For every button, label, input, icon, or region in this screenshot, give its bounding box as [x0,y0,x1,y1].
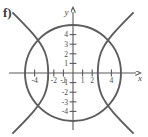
y-tick-label-1: 1 [64,59,68,68]
y-tick-label--1: -1 [62,78,69,87]
x-axis-label: x [137,73,142,83]
y-tick-label-2: 2 [64,50,68,59]
y-tick-label--4: -4 [62,107,69,116]
y-tick-label-4: 4 [64,30,68,39]
x-tick-label-4: 4 [110,76,114,85]
y-tick-label-3: 3 [64,40,68,49]
x-tick-label--2: -2 [51,76,58,85]
graph-plot: -4 -2 -1 1 2 4 4 3 2 1 -1 -2 -3 -4 x y [0,0,148,137]
y-axis-label: y [64,7,69,17]
x-tick-label-1: 1 [81,76,85,85]
y-tick-label--2: -2 [62,88,69,97]
y-tick-label--3: -3 [62,98,69,107]
x-tick-label-2: 2 [90,76,94,85]
figure-container: f) [0,0,148,137]
x-tick-label--4: -4 [31,76,38,85]
